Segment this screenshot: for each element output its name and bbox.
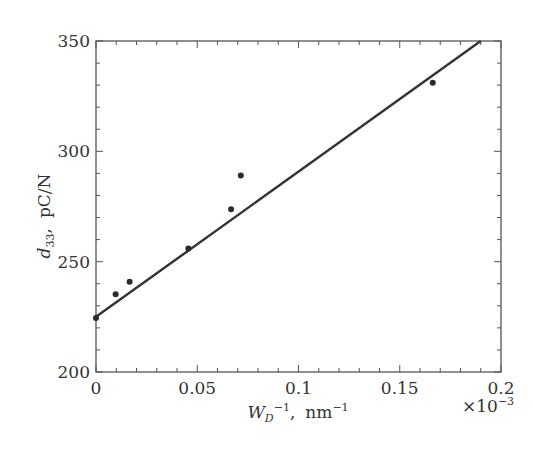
x-axis-multiplier: ×10−3 (462, 395, 514, 416)
y-tick-label: 250 (58, 252, 90, 272)
data-point (127, 279, 133, 285)
data-point (185, 245, 191, 251)
fit-line (96, 41, 481, 317)
y-tick-label: 350 (58, 31, 90, 51)
x-tick-label: 0.1 (285, 378, 312, 398)
data-point (113, 291, 119, 297)
x-axis-label: WD−1,nm−1 (247, 401, 348, 425)
data-points (93, 80, 436, 321)
data-point (238, 172, 244, 178)
tick-labels: 00.050.10.150.2200250300350 (58, 31, 515, 398)
chart: 00.050.10.150.2200250300350 WD−1,nm−1 ×1… (0, 0, 533, 450)
data-point (93, 315, 99, 321)
x-tick-label: 0 (91, 378, 102, 398)
y-tick-label: 200 (58, 362, 90, 382)
x-tick-label: 0.15 (381, 378, 419, 398)
axis-ticks (96, 41, 501, 372)
data-point (228, 206, 234, 212)
y-tick-label: 300 (58, 141, 90, 161)
fit-line-segment (96, 41, 481, 317)
x-tick-label: 0.05 (178, 378, 216, 398)
plot-frame (96, 41, 501, 372)
y-axis-label: d33,pC/N (34, 173, 57, 258)
data-point (430, 80, 436, 86)
